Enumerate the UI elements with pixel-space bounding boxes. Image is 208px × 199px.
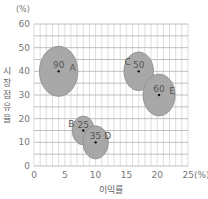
y-axis-title-char: 점 xyxy=(3,89,11,100)
y-tick-label: 40 xyxy=(19,66,31,76)
bubble-value-label: 50 xyxy=(133,60,145,70)
bubble-value-label: 25 xyxy=(78,120,89,130)
x-tick-label: 15 xyxy=(121,170,132,180)
bubble-name-label: C xyxy=(125,57,131,67)
y-axis-title-char: 시 xyxy=(3,66,11,76)
bubble-name-label: E xyxy=(169,86,175,96)
y-tick-label: 50 xyxy=(19,43,31,53)
y-tick-label: 30 xyxy=(19,90,31,100)
y-axis-unit: (%) xyxy=(16,5,30,14)
bubble-a: 90A xyxy=(39,46,77,96)
x-tick-label: 5 xyxy=(62,170,68,180)
bubble-name-label: A xyxy=(70,63,77,73)
bubble-center-dot xyxy=(82,129,84,131)
bubble-center-dot xyxy=(138,70,140,72)
y-axis-ticks: 0102030405060 xyxy=(19,19,31,171)
y-tick-label: 60 xyxy=(19,19,31,29)
bubble-name-label: B xyxy=(68,119,74,129)
y-axis-title-char: 율 xyxy=(3,114,11,124)
bubble-center-dot xyxy=(94,141,96,143)
bubble-name-label: D xyxy=(104,131,111,141)
x-tick-label: 20 xyxy=(151,170,163,180)
x-axis-title: 이익률 xyxy=(99,184,123,195)
y-axis-title: 시장점유율 xyxy=(3,66,11,124)
y-axis-title-char: 장 xyxy=(3,78,11,88)
bubble-center-dot xyxy=(158,94,160,96)
bubble-value-label: 35 xyxy=(90,131,101,141)
x-axis-ticks: 0510152025(%) xyxy=(31,170,208,180)
x-tick-label: 25(%) xyxy=(182,170,208,180)
bubble-center-dot xyxy=(57,70,59,72)
y-tick-label: 10 xyxy=(19,137,31,147)
x-tick-label: 10 xyxy=(90,170,102,180)
bubble-value-label: 90 xyxy=(53,60,65,70)
bubble-e: 60E xyxy=(143,74,175,116)
bubble-chart: 0102030405060 0510152025(%) 90A25B50C35D… xyxy=(0,0,208,199)
x-tick-label: 0 xyxy=(31,170,37,180)
y-tick-label: 0 xyxy=(24,161,30,171)
y-tick-label: 20 xyxy=(19,114,31,124)
y-axis-title-char: 유 xyxy=(3,102,11,112)
bubble-value-label: 60 xyxy=(153,84,165,94)
